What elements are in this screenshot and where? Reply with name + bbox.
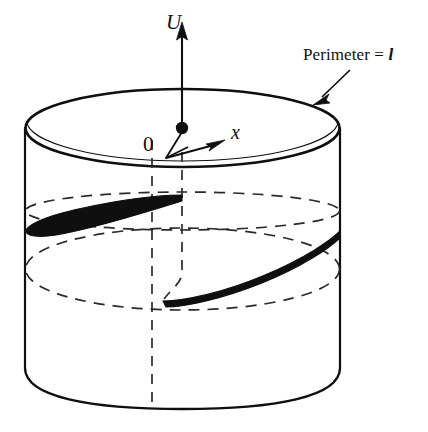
perimeter-annotation-symbol: l — [388, 45, 393, 64]
perimeter-leader-group — [313, 70, 350, 105]
perimeter-annotation-text: Perimeter = — [303, 45, 384, 64]
u-axis-label: U — [166, 12, 181, 33]
dashed-vertical-lines — [152, 140, 182, 409]
cylinder-bottom-front-arc — [25, 368, 340, 409]
dashed-offset-drop-line — [164, 152, 182, 299]
perimeter-arrowhead-icon — [313, 94, 330, 105]
perimeter-annotation: Perimeter = l — [303, 46, 393, 63]
helix-curve-lower — [163, 231, 340, 307]
helix-lower-band — [163, 231, 340, 307]
origin-label: 0 — [143, 134, 154, 155]
perimeter-leader-line — [322, 70, 350, 97]
x-axis-label: x — [231, 122, 240, 142]
figure-container: U x 0 Perimeter = l — [0, 0, 428, 432]
origin-dot — [176, 122, 188, 134]
cylinder-helix-drawing — [0, 0, 428, 432]
